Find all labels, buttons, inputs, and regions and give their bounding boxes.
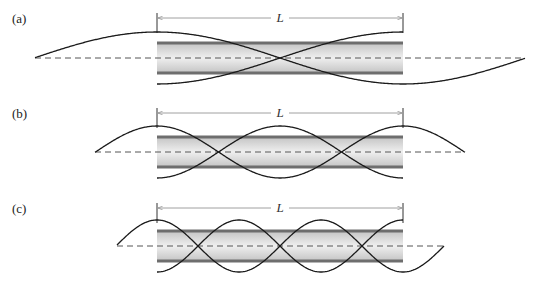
- wave-figure-canvas: LLL: [0, 0, 547, 287]
- dimension-label-L: L: [275, 200, 283, 215]
- dimension-label-L: L: [275, 10, 283, 25]
- tube-wall-bottom: [157, 260, 403, 263]
- tube-wall-top: [157, 42, 403, 45]
- panel-c: L: [117, 200, 444, 272]
- standing-wave-diagram: (a) (b) (c) LLL: [0, 0, 547, 287]
- tube-wall-bottom: [157, 72, 403, 75]
- panel-b: L: [95, 105, 465, 178]
- tube-wall-top: [157, 230, 403, 233]
- panel-a: L: [35, 10, 525, 84]
- dimension-label-L: L: [275, 105, 283, 120]
